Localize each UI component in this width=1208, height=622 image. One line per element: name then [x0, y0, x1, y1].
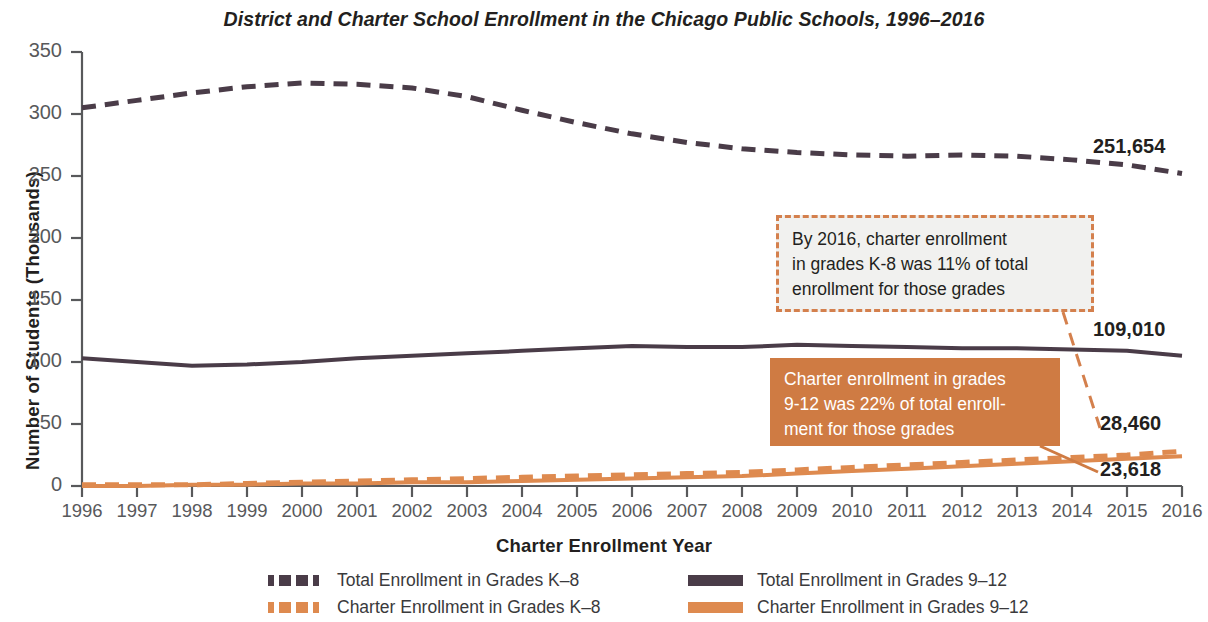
x-tick-1997: 1997 — [107, 500, 167, 522]
x-tick-1998: 1998 — [162, 500, 222, 522]
end-label-total-k8: 251,654 — [1093, 135, 1165, 158]
legend-swatch-solid-dark-icon — [688, 575, 743, 586]
x-tick-1996: 1996 — [52, 500, 112, 522]
legend-swatch-solid-orange-icon — [688, 602, 743, 613]
x-tick-2014: 2014 — [1042, 500, 1102, 522]
x-tick-2006: 2006 — [602, 500, 662, 522]
callout-912-line-3: ment for those grades — [784, 417, 1046, 442]
x-tick-2000: 2000 — [272, 500, 332, 522]
x-axis-title: Charter Enrollment Year — [0, 535, 1208, 557]
callout-k8-line-1: By 2016, charter enrollment — [792, 227, 1079, 252]
x-tick-2002: 2002 — [382, 500, 442, 522]
x-tick-2013: 2013 — [987, 500, 1047, 522]
legend-item-total-912: Total Enrollment in Grades 9–12 — [688, 570, 1007, 591]
legend-swatch-dashed-dark-icon — [268, 575, 323, 586]
x-tick-2005: 2005 — [547, 500, 607, 522]
y-tick-350: 350 — [10, 39, 62, 62]
x-tick-2011: 2011 — [877, 500, 937, 522]
y-tick-100: 100 — [10, 349, 62, 372]
legend-item-charter-k8: Charter Enrollment in Grades K–8 — [268, 597, 601, 618]
callout-charter-912: Charter enrollment in grades 9-12 was 22… — [770, 358, 1060, 446]
y-tick-250: 250 — [10, 163, 62, 186]
legend-item-total-k8: Total Enrollment in Grades K–8 — [268, 570, 579, 591]
legend-item-charter-912: Charter Enrollment in Grades 9–12 — [688, 597, 1028, 618]
x-tick-1999: 1999 — [217, 500, 277, 522]
legend-label-charter-912: Charter Enrollment in Grades 9–12 — [757, 597, 1028, 618]
y-tick-150: 150 — [10, 287, 62, 310]
x-tick-2012: 2012 — [932, 500, 992, 522]
callout-912-line-1: Charter enrollment in grades — [784, 367, 1046, 392]
legend-label-total-k8: Total Enrollment in Grades K–8 — [337, 570, 579, 591]
x-tick-2016: 2016 — [1152, 500, 1208, 522]
y-tick-0: 0 — [10, 473, 62, 496]
y-tick-200: 200 — [10, 225, 62, 248]
legend-label-total-912: Total Enrollment in Grades 9–12 — [757, 570, 1007, 591]
y-tick-300: 300 — [10, 101, 62, 124]
legend-label-charter-k8: Charter Enrollment in Grades K–8 — [337, 597, 601, 618]
end-label-charter-912: 23,618 — [1100, 458, 1161, 481]
end-label-total-912: 109,010 — [1093, 318, 1165, 341]
callout-k8-line-3: enrollment for those grades — [792, 277, 1079, 302]
legend-swatch-dashed-orange-icon — [268, 602, 323, 613]
callout-912-line-2: 9-12 was 22% of total enroll- — [784, 392, 1046, 417]
y-tick-50: 50 — [10, 411, 62, 434]
x-tick-2015: 2015 — [1097, 500, 1157, 522]
chart-legend: Total Enrollment in Grades K–8 Charter E… — [268, 570, 1128, 618]
series-line-0 — [82, 83, 1182, 174]
x-tick-2008: 2008 — [712, 500, 772, 522]
chart-figure: District and Charter School Enrollment i… — [0, 0, 1208, 622]
end-label-charter-k8: 28,460 — [1100, 412, 1161, 435]
callout-k8-line-2: in grades K-8 was 11% of total — [792, 252, 1079, 277]
x-tick-2001: 2001 — [327, 500, 387, 522]
chart-title: District and Charter School Enrollment i… — [0, 8, 1208, 31]
x-tick-2009: 2009 — [767, 500, 827, 522]
x-tick-2010: 2010 — [822, 500, 882, 522]
x-tick-2007: 2007 — [657, 500, 717, 522]
x-tick-2003: 2003 — [437, 500, 497, 522]
callout-charter-k8: By 2016, charter enrollment in grades K-… — [776, 215, 1094, 312]
x-tick-2004: 2004 — [492, 500, 552, 522]
